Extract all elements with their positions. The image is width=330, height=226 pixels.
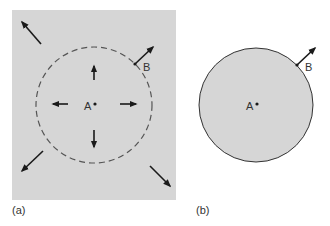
point-b-label-b: B (305, 61, 312, 73)
panel-a: A B (a) (12, 10, 176, 216)
point-a-dot-b (255, 102, 258, 105)
panel-b-caption: (b) (196, 204, 209, 216)
panel-a-caption: (a) (12, 204, 25, 216)
panel-b: A B (b) (196, 48, 315, 216)
point-a-label-b: A (246, 100, 254, 112)
point-b-label: B (143, 61, 150, 73)
diagram: A B (a) A B (b) (0, 0, 330, 226)
point-a-label: A (84, 100, 92, 112)
point-a-dot (93, 102, 96, 105)
